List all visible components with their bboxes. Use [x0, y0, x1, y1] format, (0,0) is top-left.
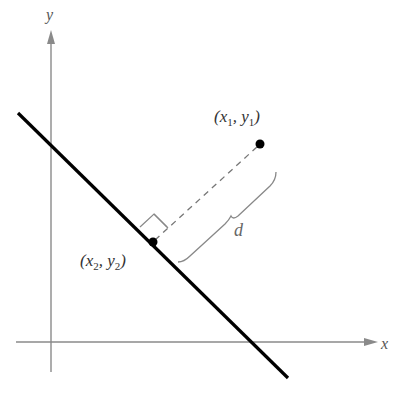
point-label-x1-y1: (x1, y1) — [214, 108, 260, 128]
right-angle-marker-side — [154, 214, 167, 227]
point-x1-y1 — [256, 140, 265, 149]
distance-label: d — [234, 221, 243, 239]
diagram-graphics — [0, 0, 403, 399]
y-axis-label: y — [46, 7, 53, 23]
right-angle-marker — [140, 214, 168, 228]
diagram-canvas: y x (x1, y1) (x2, y2) d — [0, 0, 403, 399]
point-label-x2-y2: (x2, y2) — [80, 252, 126, 272]
x-axis — [16, 338, 378, 346]
y-axis-arrow-icon — [47, 30, 55, 44]
y-axis — [47, 30, 55, 372]
x-axis-label: x — [381, 336, 388, 352]
distance-brace — [178, 172, 276, 262]
x-axis-arrow-icon — [364, 338, 378, 346]
point-x2-y2 — [149, 238, 158, 247]
